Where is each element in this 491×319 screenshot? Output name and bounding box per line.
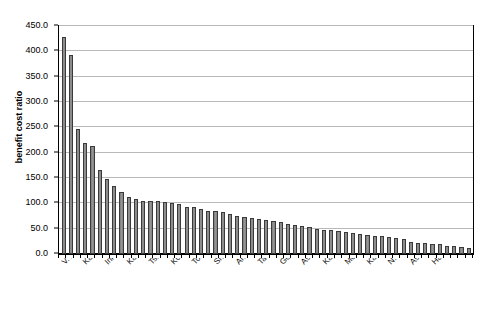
- bar[interactable]: [300, 226, 304, 254]
- bar[interactable]: [293, 225, 297, 254]
- bar-slot: [429, 26, 436, 254]
- bar[interactable]: [344, 232, 348, 254]
- bar-chart: benefit cost ratio 0.050.0100.0150.0200.…: [0, 0, 491, 319]
- bar[interactable]: [351, 233, 355, 254]
- bar-slot: [111, 26, 118, 254]
- bar[interactable]: [271, 221, 275, 254]
- bar[interactable]: [445, 246, 449, 254]
- bar-slot: [436, 26, 443, 254]
- bar[interactable]: [76, 129, 80, 254]
- bar[interactable]: [242, 217, 246, 254]
- bar[interactable]: [228, 214, 232, 254]
- bar[interactable]: [105, 179, 109, 254]
- bar[interactable]: [119, 192, 123, 254]
- x-tick-label: Tolors: [190, 258, 212, 266]
- bar[interactable]: [192, 207, 196, 254]
- bar[interactable]: [163, 202, 167, 254]
- bar[interactable]: [409, 242, 413, 254]
- bar-slot: [82, 26, 89, 254]
- bar-slot: [371, 26, 378, 254]
- bar[interactable]: [98, 170, 102, 254]
- bar[interactable]: [213, 211, 217, 254]
- bar[interactable]: [127, 197, 131, 254]
- bar-slot: [255, 26, 262, 254]
- bar[interactable]: [452, 246, 456, 254]
- bar[interactable]: [112, 186, 116, 254]
- y-tick-label: 400.0: [25, 45, 48, 55]
- bar[interactable]: [185, 207, 189, 254]
- bar[interactable]: [69, 55, 73, 254]
- bar[interactable]: [90, 146, 94, 254]
- bar-slot: [74, 26, 81, 254]
- bar[interactable]: [315, 229, 319, 254]
- bar-slot: [103, 26, 110, 254]
- y-tick-label: 450.0: [25, 20, 48, 30]
- bar-slot: [342, 26, 349, 254]
- bar-slot: [118, 26, 125, 254]
- bar[interactable]: [264, 220, 268, 254]
- bar[interactable]: [83, 143, 87, 254]
- bar[interactable]: [365, 235, 369, 254]
- bar-slot: [378, 26, 385, 254]
- bar[interactable]: [423, 243, 427, 254]
- x-tick-label: Tsilkar: [147, 258, 170, 266]
- bar-slot: [176, 26, 183, 254]
- bar-slot: [320, 26, 327, 254]
- bar[interactable]: [430, 244, 434, 254]
- bar-slot: [140, 26, 147, 254]
- bar[interactable]: [402, 239, 406, 254]
- bar[interactable]: [416, 243, 420, 254]
- bar-slot: [183, 26, 190, 254]
- bar[interactable]: [235, 216, 239, 255]
- bar[interactable]: [221, 212, 225, 254]
- bar[interactable]: [257, 219, 261, 254]
- bar[interactable]: [438, 244, 442, 254]
- bar[interactable]: [134, 199, 138, 254]
- bar-slot: [328, 26, 335, 254]
- bar[interactable]: [250, 218, 254, 254]
- bar-slot: [125, 26, 132, 254]
- bar[interactable]: [286, 224, 290, 254]
- bar-slot: [219, 26, 226, 254]
- bar[interactable]: [373, 236, 377, 254]
- x-axis-labels: V.Talin-1Katnaghbiur –1IrindKaraundshTsi…: [0, 258, 491, 319]
- bar[interactable]: [322, 230, 326, 254]
- y-tick-label: 150.0: [25, 172, 48, 182]
- bar[interactable]: [199, 209, 203, 254]
- bar[interactable]: [148, 201, 152, 254]
- bar-slot: [60, 26, 67, 254]
- bar[interactable]: [62, 37, 66, 254]
- bar[interactable]: [141, 201, 145, 254]
- bar-slot: [96, 26, 103, 254]
- bar[interactable]: [329, 230, 333, 254]
- bar[interactable]: [170, 203, 174, 254]
- y-tick-label: 50.0: [30, 223, 48, 233]
- bar[interactable]: [336, 231, 340, 254]
- bar[interactable]: [387, 237, 391, 254]
- bar-series: [59, 26, 473, 254]
- bar-slot: [147, 26, 154, 254]
- bar-slot: [226, 26, 233, 254]
- bar[interactable]: [380, 236, 384, 254]
- bar[interactable]: [394, 238, 398, 254]
- bar[interactable]: [206, 211, 210, 254]
- bar-slot: [299, 26, 306, 254]
- bar-slot: [197, 26, 204, 254]
- bar-slot: [451, 26, 458, 254]
- y-tick-label: 200.0: [25, 147, 48, 157]
- bar-slot: [414, 26, 421, 254]
- y-tick-label: 0.0: [35, 248, 48, 258]
- bar[interactable]: [459, 247, 463, 254]
- y-tick-label: 300.0: [25, 96, 48, 106]
- bar-slot: [154, 26, 161, 254]
- bar-slot: [270, 26, 277, 254]
- bar-slot: [132, 26, 139, 254]
- y-axis-ticks: 0.050.0100.0150.0200.0250.0300.0350.0400…: [0, 0, 58, 254]
- bar[interactable]: [156, 201, 160, 254]
- bar[interactable]: [307, 227, 311, 254]
- bar-slot: [407, 26, 414, 254]
- bar[interactable]: [279, 222, 283, 254]
- bar-slot: [306, 26, 313, 254]
- bar[interactable]: [177, 204, 181, 254]
- bar[interactable]: [358, 234, 362, 254]
